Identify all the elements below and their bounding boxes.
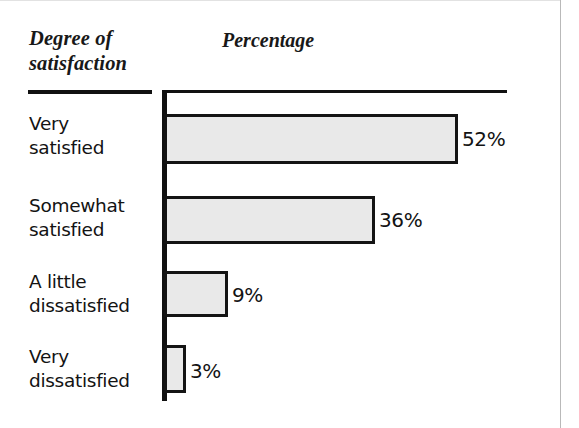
bar-value-label: 36% xyxy=(379,210,422,230)
category-label-line-1: A little xyxy=(29,270,157,294)
bar-chart-figure: Degree of satisfaction Percentage Very s… xyxy=(0,0,579,428)
bar-value-label: 52% xyxy=(462,129,505,149)
category-label: Very satisfied xyxy=(29,112,157,160)
category-label-line-2: satisfied xyxy=(29,136,157,160)
plot-top-rule xyxy=(162,90,507,93)
category-heading-line-2: satisfaction xyxy=(29,51,159,76)
bar-somewhat-satisfied xyxy=(164,196,375,244)
category-label-line-2: dissatisfied xyxy=(29,294,157,318)
bar-value-label: 3% xyxy=(190,361,221,381)
category-label: Somewhat satisfied xyxy=(29,194,157,242)
figure-right-border xyxy=(560,0,561,428)
bar-very-dissatisfied xyxy=(164,345,186,393)
category-column-heading: Degree of satisfaction xyxy=(29,26,159,76)
category-label: Very dissatisfied xyxy=(29,345,157,393)
category-label: A little dissatisfied xyxy=(29,270,157,318)
figure-top-border xyxy=(0,0,560,1)
category-column-rule xyxy=(28,90,152,94)
category-label-line-1: Very xyxy=(29,345,157,369)
bar-very-satisfied xyxy=(164,114,458,164)
category-heading-line-1: Degree of xyxy=(29,26,159,51)
value-column-heading: Percentage xyxy=(222,28,314,52)
category-label-line-1: Somewhat xyxy=(29,194,157,218)
bar-a-little-dissatisfied xyxy=(164,271,228,317)
category-label-line-2: dissatisfied xyxy=(29,369,157,393)
category-label-line-1: Very xyxy=(29,112,157,136)
category-label-line-2: satisfied xyxy=(29,218,157,242)
bar-value-label: 9% xyxy=(232,285,263,305)
